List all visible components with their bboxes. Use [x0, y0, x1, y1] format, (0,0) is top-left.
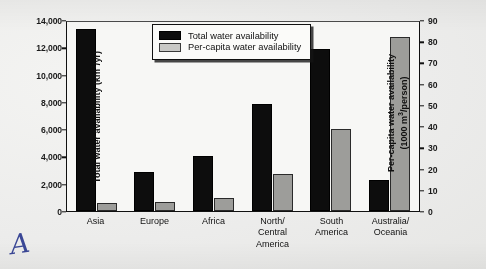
y-tick-label-left: 8,000 — [41, 98, 62, 108]
bar-capita-africa — [214, 198, 234, 211]
y-tickmark-right — [420, 84, 424, 85]
y-tick-label-right: 10 — [428, 186, 438, 196]
y-tickmark-left — [62, 157, 66, 158]
bar-capita-north-central-america — [273, 174, 293, 211]
x-label-asia: Asia — [67, 216, 125, 250]
y-tickmark-left — [62, 184, 66, 185]
y-tickmark-right — [420, 105, 424, 106]
y-tick-label-right: 70 — [428, 58, 438, 68]
y-tick-label-right: 30 — [428, 143, 438, 153]
x-label-africa: Africa — [185, 216, 243, 250]
bar-capita-south-america — [331, 129, 351, 211]
x-label-north-central-america: North/CentralAmerica — [244, 216, 302, 250]
y-tick-label-left: 2,000 — [41, 180, 62, 190]
y-tick-label-left: 4,000 — [41, 152, 62, 162]
y-tick-label-right: 0 — [428, 207, 433, 217]
y-tick-label-left: 6,000 — [41, 125, 62, 135]
legend-item-total: Total water availability — [159, 31, 301, 41]
y-axis-left-title: Total water availability (km3/yr) — [90, 22, 102, 212]
bar-total-africa — [193, 156, 213, 211]
bar-total-south-america — [310, 49, 330, 211]
y-tick-label-left: 14,000 — [36, 16, 62, 26]
legend-label-total: Total water availability — [188, 31, 278, 41]
y-tickmark-left — [62, 20, 66, 21]
y-tick-label-right: 50 — [428, 101, 438, 111]
y-axis-right-title: Per-capita water availability (1000 m3/p… — [386, 18, 410, 208]
y-tickmark-right — [420, 190, 424, 191]
legend-swatch-total-icon — [159, 31, 181, 40]
y-tickmark-right — [420, 126, 424, 127]
legend-item-capita: Per-capita water availability — [159, 42, 301, 52]
y-tick-label-right: 20 — [428, 165, 438, 175]
bar-total-europe — [134, 172, 154, 211]
y-tick-label-left: 12,000 — [36, 43, 62, 53]
y-tickmark-left — [62, 211, 66, 212]
y-tick-label-right: 60 — [428, 80, 438, 90]
y-tickmark-left — [62, 102, 66, 103]
y-tick-label-right: 80 — [428, 37, 438, 47]
y-tickmark-left — [62, 48, 66, 49]
y-tickmark-left — [62, 75, 66, 76]
y-tickmark-right — [420, 63, 424, 64]
chart-legend: Total water availability Per-capita wate… — [152, 24, 311, 60]
bar-total-north-central-america — [252, 104, 272, 211]
x-label-australia-oceania: Australia/Oceania — [362, 216, 420, 250]
y-tickmark-right — [420, 211, 424, 212]
legend-swatch-capita-icon — [159, 43, 181, 52]
y-tick-label-right: 40 — [428, 122, 438, 132]
y-tick-label-left: 10,000 — [36, 71, 62, 81]
y-tickmark-left — [62, 129, 66, 130]
y-tickmark-right — [420, 148, 424, 149]
y-tick-label-right: 90 — [428, 16, 438, 26]
y-tickmark-right — [420, 169, 424, 170]
handwritten-annotation-a: A — [8, 227, 32, 260]
x-label-south-america: SouthAmerica — [303, 216, 361, 250]
y-tickmark-right — [420, 41, 424, 42]
figure-page: Total water availability (km3/yr) Per-ca… — [0, 0, 486, 269]
x-label-europe: Europe — [126, 216, 184, 250]
y-tickmark-right — [420, 20, 424, 21]
x-axis-labels: Asia Europe Africa North/CentralAmerica … — [66, 216, 420, 250]
legend-label-capita: Per-capita water availability — [188, 42, 301, 52]
bar-capita-europe — [155, 202, 175, 211]
y-tick-label-left: 0 — [57, 207, 62, 217]
bar-group-south-america — [309, 22, 353, 211]
